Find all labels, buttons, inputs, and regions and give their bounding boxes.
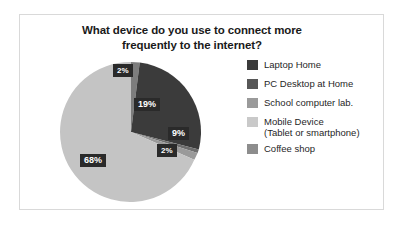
pie-label-laptop-home: 19% xyxy=(134,98,160,111)
legend-item-pc-desktop[interactable]: PC Desktop at Home xyxy=(247,78,383,91)
legend-item-label: School computer lab. xyxy=(264,97,353,108)
chart-title-line-1: What device do you use to connect more xyxy=(32,23,352,38)
legend-swatch-icon xyxy=(247,98,258,108)
legend-item-label: Coffee shop xyxy=(264,143,315,154)
legend-swatch-icon xyxy=(247,144,258,154)
legend-item-mobile-device[interactable]: Mobile Device (Tablet or smartphone) xyxy=(247,116,383,138)
pie-label-coffee-shop: 2% xyxy=(113,64,133,77)
pie-label-pc-desktop: 9% xyxy=(168,127,189,140)
legend-swatch-icon xyxy=(247,79,258,89)
chart-title: What device do you use to connect more f… xyxy=(32,23,352,53)
legend-swatch-icon xyxy=(247,60,258,70)
legend-item-label: Mobile Device (Tablet or smartphone) xyxy=(264,116,360,138)
chart-legend: Laptop Home PC Desktop at Home School co… xyxy=(247,59,383,162)
legend-swatch-icon xyxy=(247,117,258,127)
legend-item-label: PC Desktop at Home xyxy=(264,78,353,89)
chart-title-line-2: frequently to the internet? xyxy=(32,38,352,53)
legend-item-label: Laptop Home xyxy=(264,59,321,70)
pie-chart: 2% 19% 9% 2% 68% xyxy=(55,60,208,203)
legend-item-school-lab[interactable]: School computer lab. xyxy=(247,97,383,110)
legend-item-coffee-shop[interactable]: Coffee shop xyxy=(247,143,383,156)
legend-item-laptop-home[interactable]: Laptop Home xyxy=(247,59,383,72)
pie-label-mobile-device: 68% xyxy=(80,154,106,167)
chart-container: What device do you use to connect more f… xyxy=(19,14,384,210)
pie-label-school-lab: 2% xyxy=(157,144,177,157)
